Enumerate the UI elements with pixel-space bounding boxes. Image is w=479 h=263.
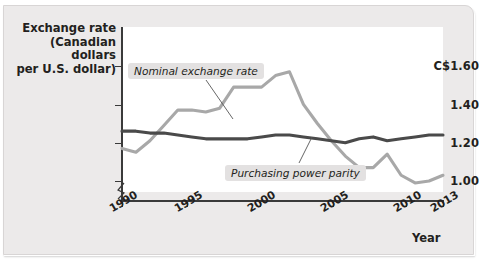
chart-figure: Exchange rate (Canadian dollars per U.S.…: [0, 0, 479, 263]
series-canvas: [0, 0, 479, 263]
ppp-callout-leader-line: [299, 137, 312, 163]
annotation-purchasing-power-parity: Purchasing power parity: [225, 165, 366, 181]
series-line-purchasing-power-parity: [122, 131, 443, 143]
nominal-callout-leader-line: [206, 80, 233, 119]
annotation-nominal-exchange-rate: Nominal exchange rate: [128, 63, 264, 79]
